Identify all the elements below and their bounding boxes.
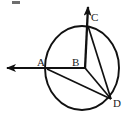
point-label-b: B <box>72 57 79 68</box>
ray-up-through-C <box>85 7 88 69</box>
point-label-a: A <box>37 57 45 68</box>
point-label-d: D <box>113 98 121 109</box>
segment-A-D <box>47 69 111 99</box>
point-label-c: C <box>91 12 98 23</box>
geometry-figure: A B C D <box>0 0 134 117</box>
scan-speck-icon <box>12 1 20 4</box>
segment-B-D <box>85 68 111 99</box>
